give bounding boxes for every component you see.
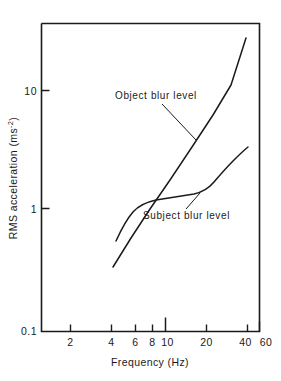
x-tick-label-8: 8 — [149, 336, 155, 348]
y-axis-title-base: RMS acceleration (ms — [7, 128, 19, 239]
series-line-object-blur-level — [113, 38, 246, 267]
x-axis-tick-labels: 2 4 6 8 10 20 40 60 — [67, 336, 272, 348]
x-axis-ticks — [71, 318, 260, 332]
y-tick-label-0.1: 0.1 — [21, 325, 37, 337]
svg-text:RMS acceleration (ms-2): RMS acceleration (ms-2) — [6, 117, 19, 239]
x-tick-label-2: 2 — [67, 336, 73, 348]
leader-line-object-blur-level — [162, 104, 196, 140]
x-axis-title: Frequency (Hz) — [111, 356, 189, 368]
annotation-object-blur-level: Object blur level — [115, 90, 197, 101]
chart-figure: 10 1 0.1 2 4 6 8 10 20 40 60 Frequenc — [0, 0, 281, 381]
x-tick-label-4: 4 — [108, 336, 114, 348]
y-tick-label-1: 1 — [31, 203, 37, 215]
annotation-subject-blur-level: Subject blur level — [143, 210, 230, 221]
x-tick-label-6: 6 — [132, 336, 138, 348]
y-axis-title-exponent: -2 — [6, 121, 15, 128]
x-tick-label-60: 60 — [260, 336, 273, 348]
x-tick-label-10: 10 — [161, 336, 174, 348]
y-axis-tick-labels: 10 1 0.1 — [21, 85, 37, 338]
plot-frame — [42, 24, 260, 332]
x-tick-label-40: 40 — [239, 336, 252, 348]
y-axis-ticks — [42, 91, 50, 209]
chart-svg: 10 1 0.1 2 4 6 8 10 20 40 60 Frequenc — [0, 0, 281, 381]
x-tick-label-20: 20 — [200, 336, 213, 348]
y-axis-title-close: ) — [7, 117, 19, 121]
y-axis-title: RMS acceleration (ms-2) — [6, 117, 19, 239]
y-tick-label-10: 10 — [24, 85, 37, 97]
